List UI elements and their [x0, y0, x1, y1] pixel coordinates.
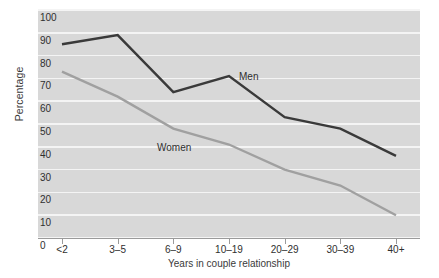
x-axis-tick-label: 10–19: [215, 244, 243, 255]
x-axis-tick-label: 3–5: [109, 244, 126, 255]
series-line-men: [62, 35, 396, 156]
x-axis-tick-label: <2: [56, 244, 67, 255]
x-axis-tick-label: 40+: [388, 244, 405, 255]
chart-figure: Percentage 0102030405060708090100 MenWom…: [0, 0, 439, 278]
plot-area: 0102030405060708090100 MenWomen: [38, 10, 420, 238]
y-axis-tick-label: 0: [40, 241, 46, 251]
y-axis-title: Percentage: [13, 39, 25, 149]
series-lines: [38, 10, 420, 238]
series-label-women: Women: [157, 142, 191, 153]
x-axis-tick-label: 6–9: [165, 244, 182, 255]
series-line-women: [62, 72, 396, 216]
x-axis-tick-label: 30–39: [326, 244, 354, 255]
series-label-men: Men: [239, 71, 258, 82]
x-axis-tick-label: 20–29: [271, 244, 299, 255]
x-axis-title: Years in couple relationship: [38, 258, 420, 269]
